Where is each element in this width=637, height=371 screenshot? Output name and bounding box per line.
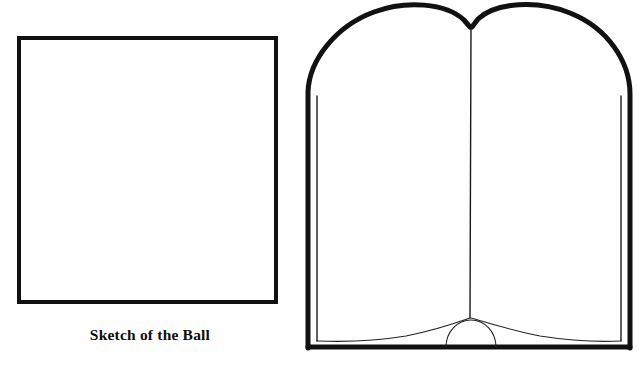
sketch-figure: Sketch of the Ball <box>0 0 300 371</box>
open-book-figure <box>296 0 637 371</box>
illustration-page: Sketch of the Ball <box>0 0 637 371</box>
sketch-box[interactable] <box>17 36 278 304</box>
sketch-caption: Sketch of the Ball <box>0 326 300 344</box>
open-book-icon <box>296 0 637 371</box>
